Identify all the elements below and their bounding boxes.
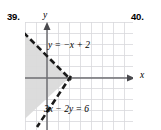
equation-label-top: y = −x + 2 (48, 40, 90, 50)
equation-label-bottom: 3x − 2y = 6 (44, 104, 89, 114)
x-axis-arrowhead (127, 75, 133, 82)
exercise-number-39: 39. (7, 11, 20, 22)
x-axis-label: x (140, 70, 144, 80)
y-axis-label: y (43, 10, 47, 20)
exercise-number-40: 40. (131, 11, 144, 22)
y-axis-arrowhead (44, 22, 51, 30)
figure-panel: 39. 40. (0, 0, 161, 130)
